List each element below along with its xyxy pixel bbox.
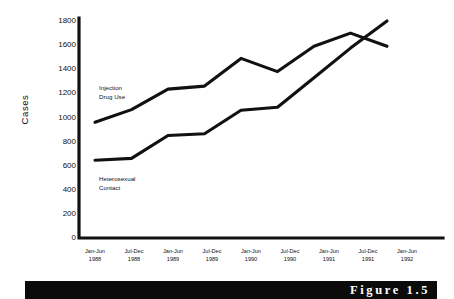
series-label-line-2: Contact	[99, 183, 135, 192]
x-tick-label-1: Jul-Dec 1988	[112, 247, 156, 263]
x-tick-period: Jul-Dec	[268, 247, 312, 255]
x-tick-period: Jan-Jun	[73, 247, 117, 255]
y-tick-label-1800: 1800	[46, 16, 76, 25]
series-label-line-1: Injection	[99, 83, 125, 92]
x-tick-period: Jan-Jun	[385, 247, 429, 255]
series-label-line-2: Drug Use	[99, 92, 125, 101]
axis-lines	[79, 18, 443, 238]
y-tick-label-400: 400	[46, 185, 76, 194]
x-tick-year: 1989	[190, 255, 234, 263]
x-tick-year: 1988	[73, 255, 117, 263]
series-label-injection-drug-use: Injection Drug Use	[99, 83, 125, 101]
x-tick-label-5: Jul-Dec 1990	[268, 247, 312, 263]
x-tick-label-4: Jan-Jun 1990	[229, 247, 273, 263]
y-tick-label-1600: 1600	[46, 40, 76, 49]
x-tick-year: 1990	[268, 255, 312, 263]
x-tick-period: Jul-Dec	[112, 247, 156, 255]
x-tick-period: Jul-Dec	[190, 247, 234, 255]
x-tick-period: Jan-Jun	[229, 247, 273, 255]
x-tick-year: 1991	[307, 255, 351, 263]
x-tick-label-2: Jan-Jun 1989	[151, 247, 195, 263]
x-tick-label-8: Jan-Jun 1992	[385, 247, 429, 263]
x-tick-year: 1988	[112, 255, 156, 263]
x-tick-period: Jan-Jun	[307, 247, 351, 255]
series-line-heterosexual-contact	[95, 21, 387, 160]
y-tick-label-1000: 1000	[46, 113, 76, 122]
y-tick-label-1200: 1200	[46, 88, 76, 97]
figure-1-5: Cases 1800 1600 1400 1200 1000 800 600 4…	[0, 0, 454, 299]
y-axis-title: Cases	[19, 80, 30, 140]
chart-plot-area: Cases 1800 1600 1400 1200 1000 800 600 4…	[0, 0, 454, 275]
figure-caption-text: Figure 1.5	[350, 282, 430, 299]
x-tick-year: 1991	[346, 255, 390, 263]
y-tick-label-200: 200	[46, 209, 76, 218]
y-tick-label-800: 800	[46, 137, 76, 146]
x-tick-label-3: Jul-Dec 1989	[190, 247, 234, 263]
y-tick-label-0: 0	[46, 233, 76, 242]
x-tick-period: Jan-Jun	[151, 247, 195, 255]
series-label-line-1: Heterosexual	[99, 174, 135, 183]
x-tick-year: 1989	[151, 255, 195, 263]
x-tick-label-6: Jan-Jun 1991	[307, 247, 351, 263]
x-tick-label-7: Jul-Dec 1991	[346, 247, 390, 263]
x-tick-label-0: Jan-Jun 1988	[73, 247, 117, 263]
series-label-heterosexual-contact: Heterosexual Contact	[99, 174, 135, 192]
x-tick-year: 1992	[385, 255, 429, 263]
x-tick-year: 1990	[229, 255, 273, 263]
y-tick-label-1400: 1400	[46, 64, 76, 73]
y-tick-label-600: 600	[46, 161, 76, 170]
x-tick-period: Jul-Dec	[346, 247, 390, 255]
